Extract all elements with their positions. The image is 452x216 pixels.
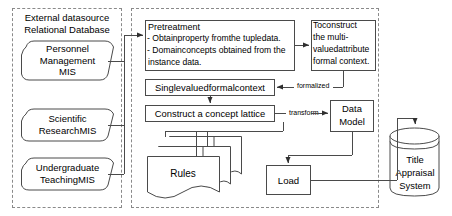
source-personnel-label: Personnel Management MIS [20, 39, 115, 82]
source-undergraduate-teaching-mis[interactable]: Undergraduate TeachingMIS [20, 156, 115, 192]
target-system-line2: Appraisal [388, 167, 442, 180]
title-appraisal-system-cylinder[interactable]: Title Appraisal System [388, 126, 442, 198]
load-box[interactable]: Load [266, 165, 311, 195]
rules-document-stack[interactable]: Rules [146, 134, 251, 200]
data-model-line2: Model [330, 116, 374, 129]
rules-label: Rules [150, 167, 216, 181]
multivalued-line2: the multi- [313, 33, 348, 43]
source-personnel-line1: Personnel [46, 43, 89, 55]
construct-concept-lattice-box[interactable]: Construct a concept lattice [145, 105, 275, 122]
source-scientific-line1: Scientific [48, 113, 86, 125]
pretreatment-line4: instance data. [148, 58, 202, 68]
edge-label-transform: transform [288, 109, 320, 116]
source-personnel-management-mis[interactable]: Personnel Management MIS [20, 39, 115, 82]
target-system-line3: System [388, 180, 442, 193]
source-personnel-line3: MIS [59, 66, 76, 78]
external-group-title-line1: External datasource [12, 12, 122, 24]
target-system-line1: Title [388, 154, 442, 167]
pretreatment-line2: - Obtainproperty fromthe tupledata. [147, 34, 281, 44]
pretreatment-line1: Pretreatment [148, 22, 200, 32]
source-scientific-research-mis[interactable]: Scientific ResearchMIS [20, 107, 115, 143]
multivalued-line4: formal context. [313, 57, 369, 67]
source-scientific-label: Scientific ResearchMIS [20, 107, 115, 143]
external-group-title-line2: Relational Database [12, 24, 122, 36]
data-model-line1: Data [330, 103, 374, 116]
edge-label-formalized: formalized [296, 82, 330, 89]
single-valued-formal-context-box[interactable]: Singlevaluedformalcontext [145, 79, 275, 96]
source-personnel-line2: Management [40, 55, 95, 67]
multivalued-line3: valuedattribute [313, 45, 369, 55]
source-scientific-line2: ResearchMIS [39, 125, 97, 137]
source-undergraduate-line1: Undergraduate [36, 162, 99, 174]
source-undergraduate-label: Undergraduate TeachingMIS [20, 156, 115, 192]
diagram-canvas: External datasource Relational Database … [0, 0, 452, 216]
source-undergraduate-line2: TeachingMIS [40, 174, 95, 186]
pretreatment-line3: - Domainconcepts obtained from the [147, 46, 286, 56]
multivalued-line1: Toconstruct [313, 21, 357, 31]
